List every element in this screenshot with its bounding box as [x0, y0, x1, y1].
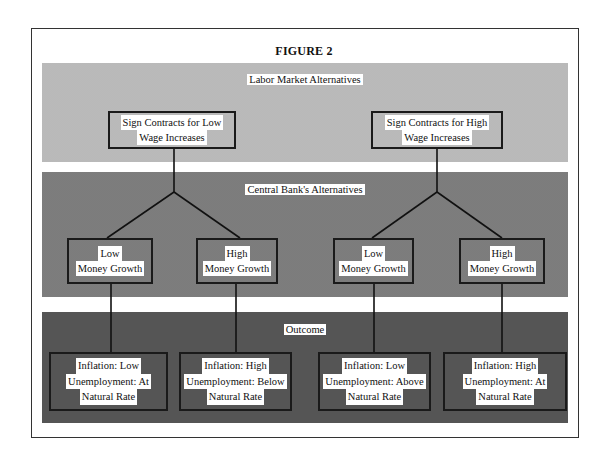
high-money-growth-box-2: High Money Growth — [459, 238, 545, 284]
low-wage-contracts-box: Sign Contracts for Low Wage Increases — [108, 111, 236, 149]
labor-market-label: Labor Market Alternatives — [42, 74, 568, 85]
high-wage-contracts-box: Sign Contracts for High Wage Increases — [371, 111, 503, 149]
low-money-growth-box-1: Low Money Growth — [67, 238, 153, 284]
outcome-box-3: Inflation: Low Unemployment: Above Natur… — [318, 352, 431, 411]
figure-title: FIGURE 2 — [0, 44, 608, 59]
outcome-box-4: Inflation: High Unemployment: At Natural… — [443, 352, 567, 411]
high-money-growth-box-1: High Money Growth — [196, 238, 278, 284]
outcome-box-1: Inflation: Low Unemployment: At Natural … — [49, 352, 168, 411]
low-money-growth-box-2: Low Money Growth — [333, 238, 414, 284]
central-bank-label: Central Bank's Alternatives — [42, 184, 568, 195]
outcome-label: Outcome — [42, 324, 568, 335]
outcome-box-2: Inflation: High Unemployment: Below Natu… — [179, 352, 292, 411]
